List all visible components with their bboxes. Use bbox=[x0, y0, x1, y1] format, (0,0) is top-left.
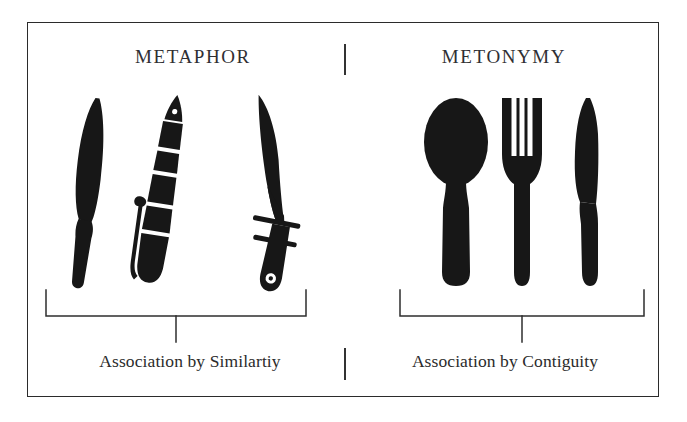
table-knife-icon bbox=[575, 98, 599, 286]
metaphor-object-group bbox=[44, 92, 324, 292]
vertical-divider-bottom bbox=[344, 348, 346, 380]
chef-knife-icon bbox=[62, 97, 110, 290]
spoon-icon bbox=[424, 98, 488, 286]
fountain-pen-icon bbox=[122, 91, 191, 285]
vertical-divider-top bbox=[344, 44, 346, 75]
panel-caption-contiguity: Association by Contiguity bbox=[366, 351, 644, 372]
fork-icon bbox=[502, 98, 542, 286]
bowie-knife-icon bbox=[222, 95, 323, 295]
grouping-bracket-left bbox=[44, 288, 308, 346]
panel-caption-similarity: Association by Similartiy bbox=[54, 351, 326, 372]
metaphor-metonymy-figure: METAPHOR METONYMY bbox=[0, 0, 687, 422]
metonymy-object-group bbox=[420, 92, 640, 292]
grouping-bracket-right bbox=[398, 288, 646, 346]
panel-heading-metonymy: METONYMY bbox=[368, 46, 640, 68]
panel-heading-metaphor: METAPHOR bbox=[62, 46, 324, 68]
